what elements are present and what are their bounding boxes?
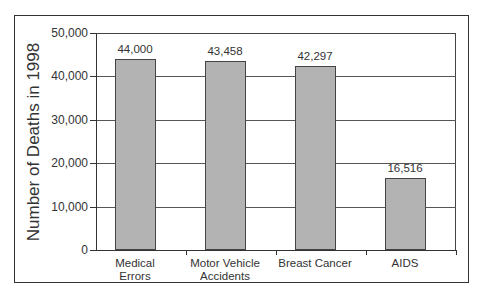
x-tick xyxy=(366,250,367,255)
category-label-line: Motor Vehicle xyxy=(177,257,273,270)
y-tick-label: 40,000 xyxy=(8,69,88,83)
category-label-line: Medical xyxy=(87,257,183,270)
data-label: 42,297 xyxy=(285,50,345,62)
y-tick-label: 10,000 xyxy=(8,200,88,214)
category-label: Motor VehicleAccidents xyxy=(177,257,273,283)
category-label: AIDS xyxy=(357,257,453,270)
data-label: 44,000 xyxy=(105,43,165,55)
plot-border-top xyxy=(96,33,456,34)
y-axis xyxy=(96,33,97,251)
category-label: Breast Cancer xyxy=(267,257,363,270)
bar xyxy=(205,61,246,250)
bar xyxy=(295,66,336,250)
y-tick-label: 50,000 xyxy=(8,26,88,40)
data-label: 16,516 xyxy=(375,162,435,174)
plot-area: 010,00020,00030,00040,00050,00044,000Med… xyxy=(96,33,456,250)
bar xyxy=(115,59,156,250)
x-tick xyxy=(276,250,277,255)
x-tick xyxy=(456,250,457,255)
category-label-line: Accidents xyxy=(177,270,273,283)
x-tick xyxy=(186,250,187,255)
y-tick-label: 30,000 xyxy=(8,113,88,127)
category-label-line: AIDS xyxy=(357,257,453,270)
bar xyxy=(385,178,426,250)
data-label: 43,458 xyxy=(195,45,255,57)
y-tick-label: 0 xyxy=(8,243,88,257)
plot-border-right xyxy=(455,33,456,250)
category-label: MedicalErrors xyxy=(87,257,183,283)
category-label-line: Errors xyxy=(87,270,183,283)
y-tick-label: 20,000 xyxy=(8,156,88,170)
category-label-line: Breast Cancer xyxy=(267,257,363,270)
